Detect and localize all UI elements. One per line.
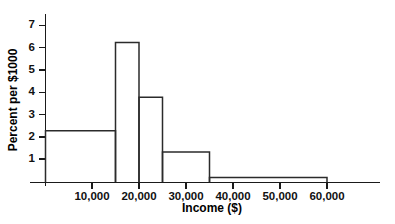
x-axis-title: Income ($) (182, 201, 242, 215)
y-axis-title: Percent per $1000 (6, 48, 20, 151)
x-tick-label-50000: 50,000 (262, 190, 297, 202)
histogram-bar-35000-60000 (210, 178, 328, 183)
histogram-bars (46, 43, 328, 182)
y-tick-label-2: 2 (29, 130, 35, 142)
x-tick-label-60000: 60,000 (309, 190, 344, 202)
y-tick-label-3: 3 (29, 108, 35, 120)
histogram-bar-20000-25000 (139, 97, 163, 182)
histogram-bar-15000-20000 (116, 43, 140, 182)
chart-canvas: 7 6 5 4 3 2 1 10,000 20,000 30,000 40,00… (0, 0, 395, 224)
histogram-bar-25000-35000 (163, 152, 210, 182)
y-tick-label-6: 6 (29, 41, 35, 53)
x-tick-label-10000: 10,000 (74, 190, 109, 202)
x-tick-label-20000: 20,000 (121, 190, 156, 202)
y-tick-label-7: 7 (29, 18, 35, 30)
y-tick-label-5: 5 (29, 63, 36, 75)
histogram-chart: 7 6 5 4 3 2 1 10,000 20,000 30,000 40,00… (0, 0, 395, 224)
y-tick-label-1: 1 (29, 152, 36, 164)
y-tick-label-4: 4 (29, 85, 36, 97)
histogram-bar-0-15000 (46, 131, 116, 182)
